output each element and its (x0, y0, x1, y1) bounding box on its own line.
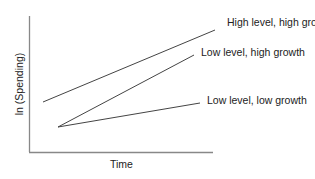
line-low-level-high-growth (58, 55, 194, 127)
diagram-canvas: High level, high growth Low level, high … (0, 0, 315, 179)
label-high-level-high-growth: High level, high growth (227, 16, 315, 28)
line-low-level-low-growth (58, 103, 200, 127)
y-axis-label: ln (Spending) (13, 53, 25, 115)
line-high-level-high-growth (43, 30, 215, 102)
x-axis-label: Time (110, 158, 133, 170)
label-low-level-high-growth: Low level, high growth (201, 46, 305, 58)
label-low-level-low-growth: Low level, low growth (207, 94, 307, 106)
